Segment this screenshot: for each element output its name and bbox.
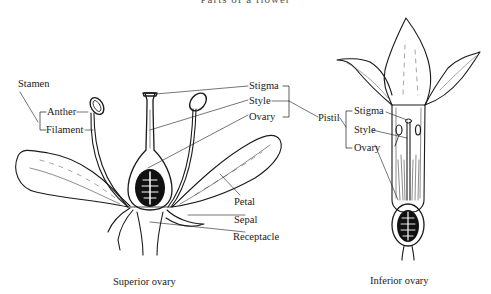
caption-inferior-ovary: Inferior ovary — [370, 275, 429, 287]
label-anther: Anther — [47, 106, 76, 118]
flower-illustration — [0, 0, 491, 294]
label-style-inferior: Style — [354, 124, 376, 136]
label-ovary-superior: Ovary — [249, 111, 275, 123]
label-sepal: Sepal — [234, 214, 257, 226]
label-ovary-inferior: Ovary — [354, 142, 380, 154]
label-petal: Petal — [234, 196, 255, 208]
label-stigma-inferior: Stigma — [354, 105, 384, 117]
label-stigma-superior: Stigma — [249, 80, 279, 92]
label-style-superior: Style — [249, 95, 271, 107]
label-stamen: Stamen — [18, 78, 50, 90]
caption-superior-ovary: Superior ovary — [113, 276, 176, 288]
flower-diagram: Parts of a flower — [0, 0, 491, 294]
inferior-flower-drawing — [337, 18, 480, 260]
label-receptacle: Receptacle — [233, 231, 279, 243]
label-pistil: Pistil — [318, 112, 340, 124]
label-filament: Filament — [46, 124, 83, 136]
